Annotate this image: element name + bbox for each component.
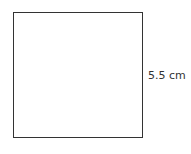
- square-shape: [13, 12, 143, 138]
- side-length-label: 5.5 cm: [148, 69, 186, 82]
